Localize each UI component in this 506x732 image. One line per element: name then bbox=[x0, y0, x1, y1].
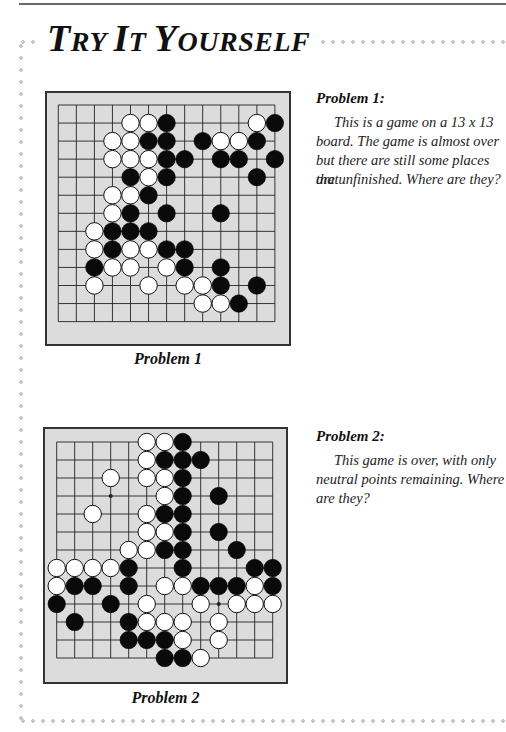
title-text: T bbox=[129, 26, 154, 57]
white-stone bbox=[156, 469, 173, 486]
black-stone bbox=[264, 559, 281, 576]
white-stone bbox=[104, 150, 121, 167]
black-stone bbox=[122, 223, 139, 240]
white-stone bbox=[120, 541, 137, 558]
problem-2-text-line: are they? bbox=[316, 489, 370, 508]
black-stone bbox=[176, 241, 193, 258]
white-stone bbox=[140, 114, 157, 131]
black-stone bbox=[86, 259, 103, 276]
black-stone bbox=[104, 223, 121, 240]
black-stone bbox=[102, 595, 119, 612]
problem-1-heading: Problem 1: bbox=[316, 90, 385, 107]
black-stone bbox=[228, 541, 245, 558]
problem-1-text-line: This is a game on a 13 x 13 bbox=[334, 113, 494, 132]
white-stone bbox=[138, 523, 155, 540]
black-stone bbox=[192, 577, 209, 594]
black-stone bbox=[210, 577, 227, 594]
star-point bbox=[109, 494, 113, 498]
black-stone bbox=[140, 187, 157, 204]
white-stone bbox=[48, 559, 65, 576]
title-letter: T bbox=[47, 17, 71, 59]
black-stone bbox=[140, 132, 157, 149]
black-stone bbox=[228, 577, 245, 594]
black-stone bbox=[120, 613, 137, 630]
black-stone bbox=[66, 577, 83, 594]
black-stone bbox=[158, 168, 175, 185]
white-stone bbox=[194, 277, 211, 294]
problem-2-heading: Problem 2: bbox=[316, 428, 385, 445]
black-stone bbox=[140, 223, 157, 240]
white-stone bbox=[210, 631, 227, 648]
black-stone bbox=[212, 259, 229, 276]
black-stone bbox=[192, 451, 209, 468]
white-stone bbox=[104, 259, 121, 276]
black-stone bbox=[264, 577, 281, 594]
black-stone bbox=[174, 469, 191, 486]
black-stone bbox=[104, 241, 121, 258]
black-stone bbox=[84, 577, 101, 594]
problem-2-text-line: This game is over, with only bbox=[334, 451, 496, 470]
white-stone bbox=[84, 559, 101, 576]
black-stone bbox=[174, 649, 191, 666]
black-stone bbox=[210, 487, 227, 504]
white-stone bbox=[138, 505, 155, 522]
white-stone bbox=[122, 259, 139, 276]
white-stone bbox=[156, 433, 173, 450]
white-stone bbox=[122, 187, 139, 204]
white-stone bbox=[158, 259, 175, 276]
black-stone bbox=[230, 295, 247, 312]
white-stone bbox=[230, 132, 247, 149]
black-stone bbox=[158, 205, 175, 222]
black-stone bbox=[156, 505, 173, 522]
black-stone bbox=[246, 559, 263, 576]
white-stone bbox=[122, 132, 139, 149]
white-stone bbox=[104, 187, 121, 204]
black-stone bbox=[138, 631, 155, 648]
dots-title-trail bbox=[318, 40, 506, 44]
white-stone bbox=[192, 595, 209, 612]
black-stone bbox=[194, 132, 211, 149]
white-stone bbox=[174, 577, 191, 594]
white-stone bbox=[102, 559, 119, 576]
black-stone bbox=[266, 114, 283, 131]
white-stone bbox=[140, 168, 157, 185]
caption-problem-2: Problem 2 bbox=[43, 689, 288, 707]
black-stone bbox=[120, 559, 137, 576]
caption-problem-1: Problem 1 bbox=[45, 350, 291, 368]
black-stone bbox=[174, 523, 191, 540]
problem-2-text-line: neutral points remaining. Where bbox=[316, 470, 504, 489]
black-stone bbox=[156, 649, 173, 666]
white-stone bbox=[176, 277, 193, 294]
black-stone bbox=[158, 114, 175, 131]
white-stone bbox=[140, 150, 157, 167]
star-point bbox=[217, 602, 221, 606]
white-stone bbox=[156, 577, 173, 594]
white-stone bbox=[174, 613, 191, 630]
white-stone bbox=[138, 613, 155, 630]
go-board-problem-1 bbox=[45, 91, 291, 346]
white-stone bbox=[138, 595, 155, 612]
white-stone bbox=[210, 613, 227, 630]
white-stone bbox=[140, 241, 157, 258]
black-stone bbox=[176, 259, 193, 276]
black-stone bbox=[48, 595, 65, 612]
black-stone bbox=[122, 205, 139, 222]
dots-bottom-row bbox=[18, 719, 506, 723]
black-stone bbox=[212, 150, 229, 167]
white-stone bbox=[86, 223, 103, 240]
white-stone bbox=[156, 487, 173, 504]
white-stone bbox=[86, 241, 103, 258]
black-stone bbox=[266, 150, 283, 167]
white-stone bbox=[264, 595, 281, 612]
white-stone bbox=[84, 505, 101, 522]
white-stone bbox=[138, 433, 155, 450]
problem-1-text-line: are unfinished. Where are they? bbox=[316, 170, 501, 189]
white-stone bbox=[156, 523, 173, 540]
white-stone bbox=[86, 277, 103, 294]
black-stone bbox=[174, 505, 191, 522]
white-stone bbox=[228, 595, 245, 612]
white-stone bbox=[248, 114, 265, 131]
black-stone bbox=[212, 205, 229, 222]
white-stone bbox=[102, 469, 119, 486]
go-board-grid bbox=[45, 429, 290, 686]
